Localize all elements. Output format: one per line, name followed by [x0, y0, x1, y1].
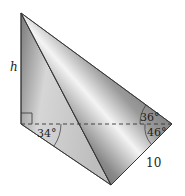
label-angle-36: 36°	[140, 111, 160, 124]
label-angle-34: 34°	[37, 127, 57, 140]
label-side-10: 10	[146, 156, 161, 170]
label-angle-46: 46°	[147, 126, 167, 139]
label-height: h	[10, 60, 18, 74]
tetrahedron-diagram: h 34° 36° 46° 10	[0, 0, 185, 196]
